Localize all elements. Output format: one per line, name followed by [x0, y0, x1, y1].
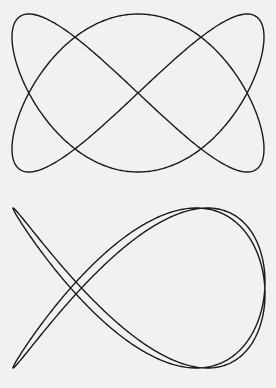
- lissajous-figure-top: [0, 0, 276, 194]
- lissajous-curve-bottom: [0, 194, 276, 388]
- lissajous-curve-top: [0, 0, 276, 194]
- lissajous-figure-bottom: [0, 194, 276, 388]
